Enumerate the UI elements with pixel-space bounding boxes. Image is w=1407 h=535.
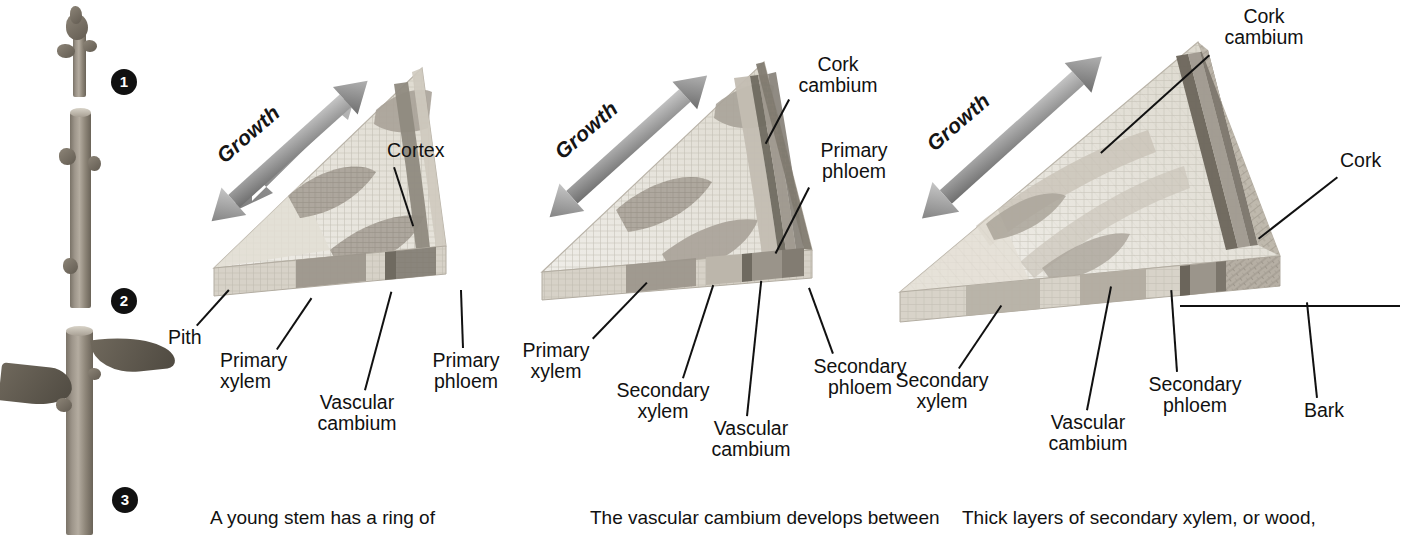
caption-text-3: Thick layers of secondary xylem, or wood… [962,506,1402,529]
growth-arrows-stage-3 [880,0,1407,350]
label-vascular-cambium-3: Vascular cambium [1028,412,1148,454]
label-cortex: Cortex [387,140,444,161]
label-pith: Pith [168,327,202,348]
label-secondary-xylem-3: Secondary xylem [872,370,1012,412]
label-secondary-xylem-2: Secondary xylem [598,380,728,422]
caption-stage-2: 2 The vascular cambium develops between [560,506,960,529]
stage-badge-2: 2 [111,288,137,314]
label-secondary-phloem-3: Secondary phloem [1128,374,1262,416]
label-vascular-cambium: Vascular cambium [302,392,412,434]
bark-bracket [1180,305,1400,307]
panel-thick-secondary-xylem: Growth Cork cambium Cork Secondary xylem… [880,0,1407,480]
caption-stage-1: 1 A young stem has a ring of [180,506,550,529]
label-bark-3: Bark [1304,400,1344,421]
stem-photo-column: 1 2 3 [0,0,180,535]
caption-text-2: The vascular cambium develops between [590,506,960,529]
label-primary-xylem-2: Primary xylem [502,340,610,382]
caption-stage-3: 3 Thick layers of secondary xylem, or wo… [932,506,1402,529]
stage-badge-1: 1 [111,69,137,95]
stage-badge-3: 3 [112,487,138,513]
panel-young-stem: Growth Cortex Pith Primary xylem Vascula… [180,0,560,480]
leaf-right [90,332,175,376]
label-primary-xylem: Primary xylem [220,350,287,392]
label-vascular-cambium-2: Vascular cambium [692,418,810,460]
growth-arrows-stage-1 [180,0,560,340]
label-cork-cambium-3: Cork cambium [1204,6,1324,48]
caption-text-1: A young stem has a ring of [210,506,550,529]
label-cork-3: Cork [1340,150,1381,171]
